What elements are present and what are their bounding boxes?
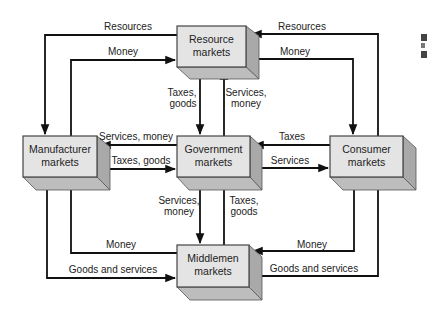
edge-goods-services-manufacturer-to-middlemen <box>47 178 175 278</box>
edge-label: Taxes, <box>230 195 259 206</box>
edge-label: Taxes <box>279 131 305 142</box>
market-flow-diagram: Resource markets Manufacturer markets Go… <box>0 0 433 317</box>
edge-resources-consumer-to-resource <box>252 34 378 136</box>
edge-label: goods <box>230 206 257 217</box>
node-government-markets: Government markets <box>177 136 262 190</box>
margin-mark <box>421 43 425 48</box>
node-label: Resource <box>189 33 234 45</box>
margin-mark <box>421 34 427 41</box>
edge-label: Money <box>297 239 327 250</box>
edge-label: goods <box>169 98 196 109</box>
node-label: markets <box>195 156 232 168</box>
edge-label: Services, <box>225 87 266 98</box>
edge-label: Services, <box>158 195 199 206</box>
edge-label: Taxes, <box>168 87 197 98</box>
edge-label: money <box>164 206 194 217</box>
edge-goods-services-middlemen-to-consumer <box>249 180 378 276</box>
edge-label: Taxes, goods <box>112 155 171 166</box>
node-resource-markets: Resource markets <box>177 26 259 79</box>
node-label: markets <box>41 156 78 168</box>
edge-label: Money <box>108 46 138 57</box>
edge-label: Goods and services <box>270 263 358 274</box>
edge-label: Resources <box>104 21 152 32</box>
edge-label: Services, money <box>99 131 173 142</box>
edge-label: Money <box>280 46 310 57</box>
margin-mark <box>421 51 427 58</box>
node-consumer-markets: Consumer markets <box>330 136 416 190</box>
node-label: markets <box>194 265 231 277</box>
node-manufacturer-markets: Manufacturer markets <box>23 136 110 190</box>
node-label: Consumer <box>342 143 391 155</box>
edge-label: Money <box>106 239 136 250</box>
node-label: Government <box>185 143 243 155</box>
node-label: markets <box>348 156 385 168</box>
edge-label: money <box>231 98 261 109</box>
node-label: Manufacturer <box>29 143 91 155</box>
edge-money-to-resource <box>71 60 175 136</box>
edge-label: Resources <box>278 21 326 32</box>
edge-label: Goods and services <box>69 264 157 275</box>
node-middlemen-markets: Middlemen markets <box>177 245 262 300</box>
node-label: Middlemen <box>187 252 239 264</box>
node-label: markets <box>193 46 230 58</box>
edge-label: Services <box>271 155 309 166</box>
